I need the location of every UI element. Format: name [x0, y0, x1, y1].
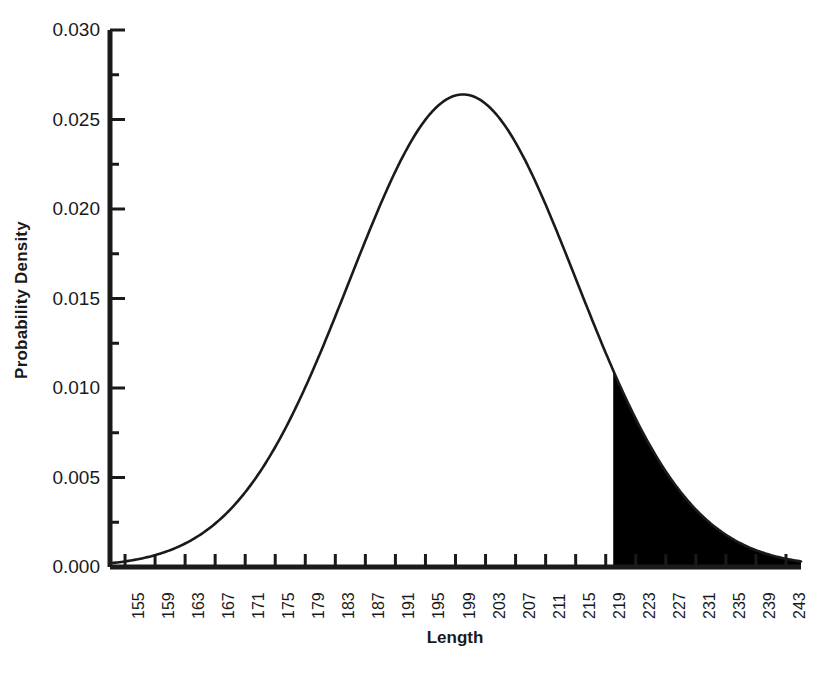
- x-tick-label: 231: [702, 592, 718, 619]
- y-tick-label: 0.015: [10, 289, 100, 308]
- probability-density-plot: [0, 0, 820, 677]
- x-tick-label: 187: [371, 592, 387, 619]
- x-tick-label: 239: [762, 592, 778, 619]
- y-tick-label: 0.005: [10, 468, 100, 487]
- x-tick-label: 223: [642, 592, 658, 619]
- figure-caption-partial: [112, 659, 632, 675]
- x-tick-label: 183: [341, 592, 357, 619]
- x-tick-label: 167: [221, 592, 237, 619]
- x-tick-label: 203: [492, 592, 508, 619]
- x-tick-label: 163: [191, 592, 207, 619]
- y-tick-label: 0.020: [10, 199, 100, 218]
- y-tick-label: 0.030: [10, 20, 100, 39]
- x-tick-label: 243: [792, 592, 808, 619]
- y-tick-label: 0.025: [10, 110, 100, 129]
- x-tick-label: 227: [672, 592, 688, 619]
- x-tick-label: 179: [311, 592, 327, 619]
- y-tick-label: 0.010: [10, 378, 100, 397]
- x-tick-label: 159: [161, 592, 177, 619]
- y-tick-label: 0.000: [10, 557, 100, 576]
- x-tick-label: 195: [431, 592, 447, 619]
- x-tick-label: 175: [281, 592, 297, 619]
- x-tick-label: 211: [552, 593, 568, 619]
- x-axis-title-wrap: Length: [0, 628, 820, 648]
- x-tick-label: 199: [462, 592, 478, 619]
- x-axis-title: Length: [427, 628, 484, 648]
- figure-root: Probability Density Length 0.0000.0050.0…: [0, 0, 820, 677]
- x-tick-label: 215: [582, 592, 598, 619]
- x-tick-label: 235: [732, 592, 748, 619]
- x-tick-label: 191: [401, 592, 417, 619]
- x-tick-label: 219: [612, 592, 628, 619]
- x-tick-label: 155: [131, 592, 147, 619]
- x-tick-label: 207: [522, 592, 538, 619]
- x-tick-label: 171: [251, 592, 267, 619]
